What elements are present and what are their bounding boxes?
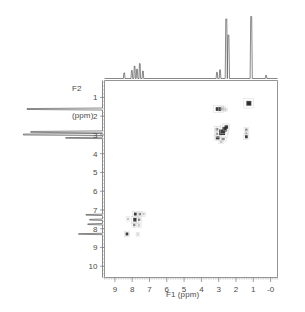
y-tick-label: 6 <box>93 187 98 196</box>
nmr-figure: 987654321-0 12345678910 F2 (ppm) F1 (ppm… <box>0 0 305 312</box>
y-axis-title-line2: (ppm) <box>72 111 93 120</box>
y-tick-label: 10 <box>89 262 98 271</box>
cross-peak <box>245 135 248 138</box>
x-tick-label: 1 <box>251 285 256 294</box>
cross-peak <box>143 213 145 215</box>
figure-stage: 987654321-0 12345678910 F2 (ppm) F1 (ppm… <box>0 0 305 312</box>
cross-peak <box>137 233 139 235</box>
cross-peak <box>126 232 129 235</box>
cross-peak <box>134 213 137 216</box>
cross-peak <box>222 138 225 140</box>
x-tick-label: 4 <box>199 285 204 294</box>
cross-peak <box>225 109 227 111</box>
cross-peak <box>220 108 223 111</box>
cross-peak <box>139 213 141 216</box>
x-tick-label: -0 <box>267 285 275 294</box>
f1-projection-path <box>105 17 278 79</box>
y-tick-label: 7 <box>93 206 98 215</box>
f1-projection-trace <box>105 17 278 79</box>
cross-peak <box>138 224 140 226</box>
y-tick-label: 3 <box>93 131 98 140</box>
cross-peak <box>133 218 136 222</box>
x-tick-label: 8 <box>130 285 135 294</box>
x-tick-label: 3 <box>216 285 221 294</box>
cross-peak <box>220 141 222 143</box>
y-tick-label: 5 <box>93 168 98 177</box>
x-tick-label: 2 <box>234 285 239 294</box>
y-tick-label: 1 <box>93 93 98 102</box>
cross-peak <box>216 128 219 131</box>
y-tick-label: 4 <box>93 150 98 159</box>
x-tick-label: 7 <box>147 285 152 294</box>
cross-peak-layer <box>124 99 253 237</box>
spectrum-canvas: 987654321-0 12345678910 <box>0 0 305 312</box>
cross-peak <box>216 133 218 135</box>
y-tick-label: 2 <box>93 112 98 121</box>
y-tick-label: 9 <box>93 243 98 252</box>
y-axis-title-line1: F2 <box>72 84 93 93</box>
cross-peak <box>138 218 140 221</box>
y-axis-title: F2 (ppm) <box>72 66 93 138</box>
x-axis-title: F1 (ppm) <box>166 290 199 299</box>
cross-peak <box>127 218 129 220</box>
cross-peak <box>247 102 250 105</box>
plot-frame <box>105 81 278 278</box>
cross-peak <box>225 125 228 128</box>
cross-peak <box>216 136 220 139</box>
cross-peak <box>133 224 135 227</box>
x-tick-label: 9 <box>113 285 118 294</box>
cross-peak <box>245 129 247 131</box>
y-tick-label: 8 <box>93 225 98 234</box>
